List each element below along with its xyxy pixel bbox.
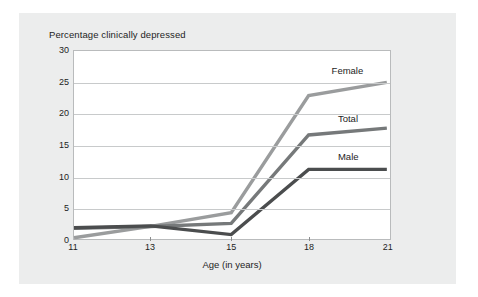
y-tick-label: 30 (47, 45, 69, 55)
x-tick-label: 15 (226, 242, 236, 252)
gridline (74, 146, 390, 147)
y-tick-label: 0 (47, 235, 69, 245)
chart-title: Percentage clinically depressed (49, 29, 186, 40)
series-label-female: Female (332, 65, 364, 76)
gridline (74, 209, 390, 210)
gridline (74, 83, 390, 84)
x-tick-label: 18 (304, 242, 314, 252)
x-tick-label: 21 (383, 242, 393, 252)
x-tick-mark (231, 237, 232, 241)
series-label-male: Male (338, 151, 359, 162)
y-tick-label: 10 (47, 172, 69, 182)
x-axis-label: Age (in years) (73, 259, 391, 270)
x-tick-label: 13 (145, 242, 155, 252)
y-tick-label: 5 (47, 203, 69, 213)
x-tick-mark (309, 237, 310, 241)
plot-area: FemaleTotalMale (73, 50, 391, 240)
x-axis: 1113151821 (73, 242, 391, 256)
series-lines (74, 51, 390, 239)
series-label-total: Total (338, 113, 358, 124)
y-tick-label: 25 (47, 77, 69, 87)
y-tick-label: 15 (47, 140, 69, 150)
y-axis: 051015202530 (45, 50, 69, 240)
x-tick-label: 11 (68, 242, 77, 252)
gridline (74, 178, 390, 179)
x-tick-mark (150, 237, 151, 241)
chart-screenshot: Percentage clinically depressed 05101520… (0, 0, 478, 297)
y-tick-label: 20 (47, 108, 69, 118)
